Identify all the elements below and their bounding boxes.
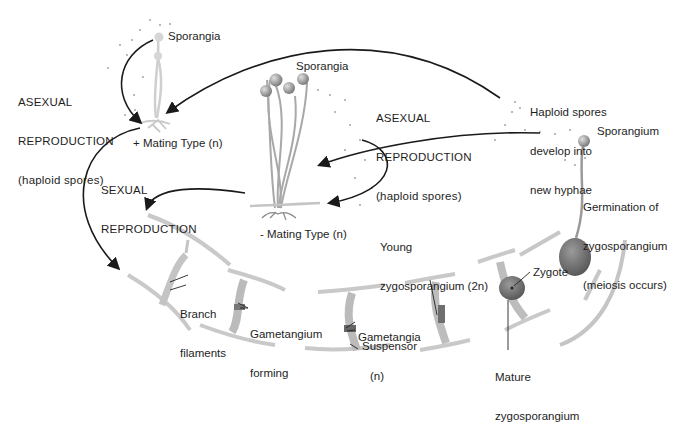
label-zygote: Zygote	[533, 266, 568, 279]
label-sporangia-middle: Sporangia	[296, 60, 348, 73]
label-line: Germination of	[583, 201, 667, 214]
minus-mating-type-fungus	[250, 80, 320, 220]
label-line: zygosporangium	[495, 410, 579, 423]
label-sporangium: Sporangium	[597, 125, 659, 138]
label-line: (n)	[358, 370, 421, 383]
stage-mature-zygosporangium	[478, 250, 550, 330]
label-line: (haploid spores)	[376, 190, 472, 203]
label-asexual-middle: ASEXUAL REPRODUCTION (haploid spores)	[376, 86, 472, 216]
label-line: SEXUAL	[101, 184, 197, 197]
label-sporangia-top: Sporangia	[168, 30, 220, 43]
label-minus-mating-type: - Mating Type (n)	[260, 228, 347, 241]
label-suspensor: Suspensor	[362, 340, 417, 353]
label-line: zygosporangium (2n)	[380, 280, 488, 293]
label-sexual-reproduction: SEXUAL REPRODUCTION	[101, 158, 197, 249]
label-young-zygosporangium: Young zygosporangium (2n)	[380, 215, 488, 306]
label-line: ASEXUAL	[18, 96, 114, 109]
label-branch-filaments: Branch filaments	[180, 282, 226, 373]
label-line: filaments	[180, 347, 226, 360]
label-line: ASEXUAL	[376, 112, 472, 125]
label-line: REPRODUCTION	[376, 151, 472, 164]
label-asexual-left: ASEXUAL REPRODUCTION (haploid spores)	[18, 70, 114, 200]
label-line: (haploid spores)	[18, 174, 114, 187]
label-mature-zygosporangium: Mature zygosporangium	[495, 345, 579, 426]
label-line: Young	[380, 241, 488, 254]
label-line: Haploid spores	[530, 106, 607, 119]
label-line: zygosporangium	[583, 240, 667, 253]
label-plus-mating-type: + Mating Type (n)	[133, 137, 223, 150]
label-line: Mature	[495, 371, 579, 384]
label-gametangium-forming: Gametangium forming	[250, 302, 322, 393]
label-line: forming	[250, 367, 322, 380]
label-line: Branch	[180, 308, 226, 321]
label-line: (meiosis occurs)	[583, 279, 667, 292]
plus-mating-type-fungus	[140, 33, 170, 133]
label-line: REPRODUCTION	[101, 223, 197, 236]
label-line: REPRODUCTION	[18, 135, 114, 148]
label-germination: Germination of zygosporangium (meiosis o…	[583, 175, 667, 305]
label-line: Gametangium	[250, 328, 322, 341]
label-line: develop into	[530, 145, 607, 158]
